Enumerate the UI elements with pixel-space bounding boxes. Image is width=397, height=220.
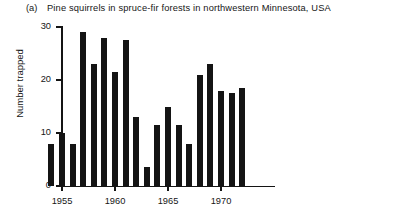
bar <box>91 64 97 186</box>
y-tick <box>56 79 61 81</box>
bar <box>197 75 203 186</box>
x-tick-label: 1970 <box>201 196 241 206</box>
bar <box>80 32 86 186</box>
bar <box>144 167 150 186</box>
x-tick-label: 1960 <box>95 196 135 206</box>
bar <box>112 72 118 186</box>
bar <box>218 91 224 186</box>
bar <box>239 88 245 186</box>
bar <box>48 144 54 186</box>
y-tick-label: 30 <box>21 21 51 31</box>
x-tick <box>167 186 169 191</box>
bar <box>70 144 76 186</box>
bar <box>59 133 65 186</box>
plot-area <box>62 27 274 186</box>
bar <box>101 38 107 186</box>
bar-series <box>62 27 274 186</box>
x-tick-label: 1965 <box>148 196 188 206</box>
bar <box>165 107 171 187</box>
bar <box>154 125 160 186</box>
bar <box>229 93 235 186</box>
x-tick <box>114 186 116 191</box>
bar <box>176 125 182 186</box>
y-tick-label: 20 <box>21 74 51 84</box>
bar <box>123 40 129 186</box>
x-tick <box>220 186 222 191</box>
y-tick <box>56 26 61 28</box>
x-tick <box>61 186 63 191</box>
y-tick-label: 0 <box>21 180 51 190</box>
bar <box>133 117 139 186</box>
chart-title: Pine squirrels in spruce-fir forests in … <box>47 3 331 13</box>
figure-panel: (a) Pine squirrels in spruce-fir forests… <box>0 0 397 220</box>
y-tick-label: 10 <box>21 127 51 137</box>
bar <box>207 64 213 186</box>
x-tick-label: 1955 <box>42 196 82 206</box>
panel-letter: (a) <box>26 3 37 13</box>
bar <box>186 144 192 186</box>
